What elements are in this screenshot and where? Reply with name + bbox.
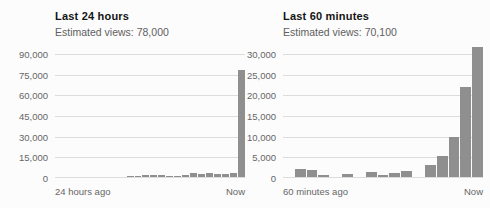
plot-area: [55, 54, 245, 178]
y-axis-labels: 90,00075,00060,00045,00030,00015,0000: [0, 54, 55, 178]
chart-card-last-60-minutes: Last 60 minutes Estimated views: 70,100 …: [245, 0, 490, 208]
y-tick-label: 10,000: [247, 131, 276, 142]
y-tick-label: 0: [271, 173, 276, 184]
y-tick-label: 60,000: [19, 90, 48, 101]
chart-title: Last 24 hours: [55, 10, 245, 23]
bar[interactable]: [135, 176, 142, 177]
estimated-views-label: Estimated views: 78,000: [55, 26, 245, 39]
y-tick-label: 25,000: [247, 69, 276, 80]
bar[interactable]: [158, 175, 165, 177]
y-tick-label: 20,000: [247, 90, 276, 101]
bar[interactable]: [401, 171, 412, 177]
bar[interactable]: [378, 175, 389, 177]
bar[interactable]: [295, 169, 306, 177]
y-tick-label: 15,000: [19, 152, 48, 163]
bar[interactable]: [437, 156, 448, 177]
bar[interactable]: [206, 173, 213, 177]
estimated-views-label: Estimated views: 70,100: [283, 26, 483, 39]
chart-title: Last 60 minutes: [283, 10, 483, 23]
x-axis: 24 hours ago Now: [55, 186, 245, 197]
gridline: [55, 177, 245, 178]
bar[interactable]: [198, 174, 205, 177]
bar[interactable]: [472, 47, 483, 177]
bar[interactable]: [307, 170, 318, 177]
bar[interactable]: [366, 172, 377, 177]
bar[interactable]: [449, 137, 460, 177]
chart-header: Last 60 minutes Estimated views: 70,100: [283, 10, 483, 39]
y-tick-label: 15,000: [247, 111, 276, 122]
y-tick-label: 90,000: [19, 49, 48, 60]
x-axis-end-label: Now: [464, 186, 483, 197]
x-axis-start-label: 60 minutes ago: [283, 186, 348, 197]
bar[interactable]: [230, 173, 237, 177]
bar[interactable]: [127, 176, 134, 177]
x-axis-end-label: Now: [226, 186, 245, 197]
chart-body: 90,00075,00060,00045,00030,00015,0000: [0, 54, 245, 178]
bar[interactable]: [318, 175, 329, 177]
gridline: [283, 177, 483, 178]
plot-area: [283, 54, 483, 178]
y-tick-label: 5,000: [252, 152, 276, 163]
chart-header: Last 24 hours Estimated views: 78,000: [55, 10, 245, 39]
bar-series[interactable]: [283, 54, 483, 177]
bar[interactable]: [190, 173, 197, 177]
y-tick-label: 75,000: [19, 69, 48, 80]
bar-series[interactable]: [55, 54, 245, 177]
y-tick-label: 0: [43, 173, 48, 184]
realtime-analytics-panel: Last 24 hours Estimated views: 78,000 90…: [0, 0, 490, 208]
bar[interactable]: [222, 174, 229, 177]
bar[interactable]: [150, 175, 157, 177]
bar[interactable]: [425, 165, 436, 177]
y-tick-label: 30,000: [247, 49, 276, 60]
bar[interactable]: [238, 70, 245, 177]
bar[interactable]: [389, 173, 400, 177]
y-tick-label: 45,000: [19, 111, 48, 122]
bar[interactable]: [214, 174, 221, 177]
chart-card-last-24-hours: Last 24 hours Estimated views: 78,000 90…: [0, 0, 245, 208]
x-axis-start-label: 24 hours ago: [55, 186, 110, 197]
chart-body: 30,00025,00020,00015,00010,0005,0000: [245, 54, 483, 178]
y-tick-label: 30,000: [19, 131, 48, 142]
bar[interactable]: [166, 176, 173, 177]
x-axis: 60 minutes ago Now: [283, 186, 483, 197]
bar[interactable]: [174, 176, 181, 177]
bar[interactable]: [342, 174, 353, 177]
bar[interactable]: [182, 175, 189, 177]
y-axis-labels: 30,00025,00020,00015,00010,0005,0000: [245, 54, 283, 178]
bar[interactable]: [142, 175, 149, 177]
bar[interactable]: [460, 87, 471, 177]
